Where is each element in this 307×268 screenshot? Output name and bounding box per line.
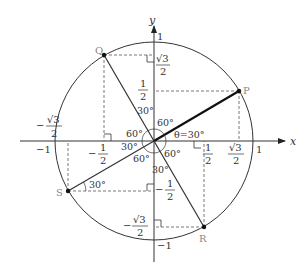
angle-q-top: 30° bbox=[137, 105, 154, 116]
x-axis-label: x bbox=[290, 135, 297, 148]
label-x-neg-one-half: − 1 2 bbox=[88, 142, 108, 166]
svg-text:−: − bbox=[88, 148, 96, 159]
label-y-neg-one-half: − 1 2 bbox=[155, 178, 175, 202]
theta-label: θ=30° bbox=[174, 129, 205, 140]
svg-text:1: 1 bbox=[140, 78, 146, 89]
label-p: P bbox=[243, 85, 250, 96]
radius-os bbox=[68, 141, 154, 191]
svg-text:√3: √3 bbox=[229, 142, 242, 153]
point-p bbox=[237, 89, 241, 93]
angle-s-bottom: 60° bbox=[133, 153, 150, 164]
svg-text:2: 2 bbox=[51, 128, 57, 139]
svg-text:2: 2 bbox=[205, 155, 211, 166]
angle-q-right: 60° bbox=[157, 117, 174, 128]
y-axis-label: y bbox=[148, 14, 156, 27]
svg-text:√3: √3 bbox=[133, 214, 146, 225]
label-r: R bbox=[199, 233, 207, 244]
svg-text:2: 2 bbox=[160, 66, 166, 77]
svg-text:1: 1 bbox=[167, 178, 173, 189]
angle-s-point: 30° bbox=[89, 179, 106, 190]
svg-text:2: 2 bbox=[140, 91, 146, 102]
svg-text:2: 2 bbox=[100, 155, 106, 166]
svg-text:√3: √3 bbox=[156, 53, 169, 64]
svg-text:−: − bbox=[155, 184, 163, 195]
label-x-sqrt3-over-2: √3 2 bbox=[228, 142, 244, 166]
label-s: S bbox=[56, 187, 63, 198]
point-s bbox=[66, 189, 70, 193]
angle-q-left: 60° bbox=[126, 128, 143, 139]
tick-y-pos: 1 bbox=[157, 31, 163, 42]
svg-text:1: 1 bbox=[100, 142, 106, 153]
svg-text:1: 1 bbox=[205, 142, 211, 153]
angle-r-right: 60° bbox=[164, 148, 181, 159]
svg-text:√3: √3 bbox=[47, 114, 60, 125]
tick-x-pos: 1 bbox=[256, 144, 262, 155]
svg-text:−: − bbox=[123, 220, 131, 231]
label-q: Q bbox=[95, 45, 103, 56]
label-y-one-half: 1 2 bbox=[138, 78, 148, 102]
svg-text:2: 2 bbox=[137, 227, 143, 238]
label-y-neg-sqrt3-over-2: − √3 2 bbox=[123, 214, 148, 238]
label-x-neg-sqrt3-over-2: − √3 2 bbox=[36, 114, 62, 139]
tick-x-neg: −1 bbox=[36, 144, 51, 155]
svg-text:2: 2 bbox=[233, 155, 239, 166]
angle-r-bottom: 30° bbox=[152, 164, 169, 175]
tick-y-neg: −1 bbox=[157, 240, 172, 251]
unit-circle-diagram: P Q S R x y 1 −1 1 −1 √3 2 1 2 − 1 2 − √… bbox=[0, 0, 307, 268]
label-y-sqrt3-over-2: √3 2 bbox=[156, 53, 170, 77]
svg-text:2: 2 bbox=[167, 191, 173, 202]
svg-text:−: − bbox=[36, 120, 44, 131]
label-x-one-half: 1 2 bbox=[203, 142, 213, 166]
angle-s-left: 30° bbox=[121, 141, 138, 152]
point-r bbox=[202, 225, 206, 229]
